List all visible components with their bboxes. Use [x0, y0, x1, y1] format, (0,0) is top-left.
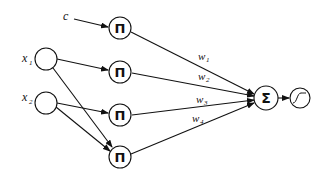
edge-x2-p3	[57, 103, 108, 113]
input-x2-label: x	[21, 90, 28, 104]
input-node-x2: x 2	[21, 90, 57, 114]
weight-labels: w 1 w 2 w 3 w 4	[192, 50, 210, 126]
constant-label: c	[63, 9, 69, 23]
product-unit-network-diagram: c x 1 x 2 Π Π Π Π w 1 w 2 w 3 w 4	[0, 0, 332, 177]
product-symbol: Π	[115, 65, 126, 80]
sigmoid-activation-node	[290, 88, 310, 108]
edge-c-p1	[74, 19, 108, 27]
product-node-1: Π	[109, 17, 131, 39]
weight-w1-label: w	[198, 50, 206, 62]
weight-w2-subscript: 2	[206, 76, 210, 84]
product-symbol: Π	[115, 108, 126, 123]
weight-w1-subscript: 1	[206, 56, 210, 64]
input-node-x1: x 1	[21, 48, 57, 70]
weight-w3-label: w	[196, 93, 204, 105]
edges	[53, 19, 289, 154]
product-node-3: Π	[109, 104, 131, 126]
weight-w4-subscript: 4	[200, 118, 204, 126]
weight-w4-label: w	[192, 112, 200, 124]
edge-p4-sum	[131, 103, 254, 154]
edge-x1-p2	[57, 59, 108, 70]
sum-symbol: Σ	[261, 90, 271, 106]
sum-node: Σ	[254, 86, 278, 110]
input-x1-label: x	[21, 51, 28, 65]
input-x1-subscript: 1	[29, 59, 33, 67]
product-node-4: Π	[109, 146, 131, 168]
product-symbol: Π	[115, 21, 126, 36]
product-symbol: Π	[115, 150, 126, 165]
weight-w2-label: w	[198, 70, 206, 82]
input-x2-subscript: 2	[29, 98, 33, 106]
edge-x2-p4	[56, 107, 110, 151]
product-node-2: Π	[109, 61, 131, 83]
weight-w3-subscript: 3	[203, 99, 208, 107]
diagram-canvas: c x 1 x 2 Π Π Π Π w 1 w 2 w 3 w 4	[0, 0, 332, 177]
